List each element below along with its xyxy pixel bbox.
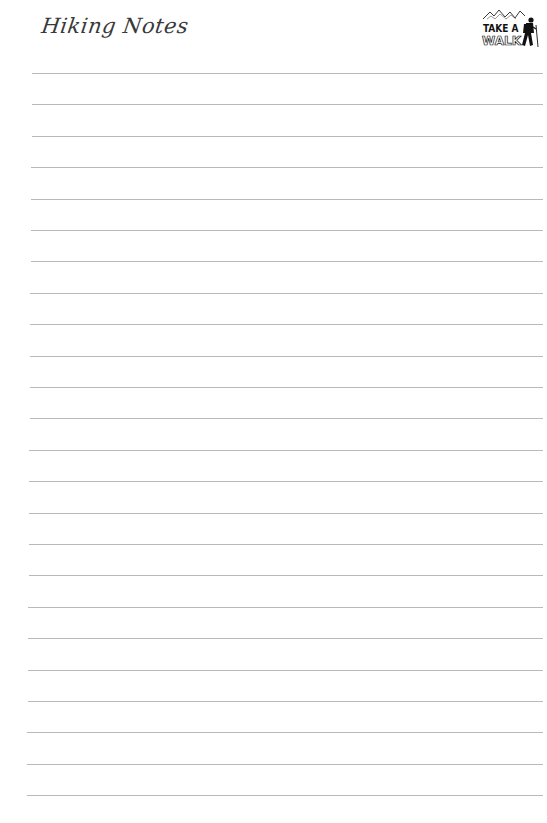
- writing-line: [29, 481, 543, 482]
- writing-line: [27, 732, 543, 733]
- writing-line: [28, 670, 543, 671]
- writing-line: [31, 167, 543, 168]
- writing-line: [32, 104, 543, 105]
- ruled-lines: [0, 0, 547, 823]
- writing-line: [28, 701, 543, 702]
- writing-line: [27, 764, 543, 765]
- writing-line: [30, 418, 543, 419]
- notebook-page: Hiking Notes TAKE A WALK: [0, 0, 547, 823]
- writing-line: [32, 73, 543, 74]
- writing-line: [30, 387, 543, 388]
- writing-line: [28, 607, 543, 608]
- writing-line: [29, 450, 543, 451]
- writing-line: [29, 513, 543, 514]
- writing-line: [30, 324, 543, 325]
- writing-line: [31, 230, 543, 231]
- writing-line: [30, 356, 543, 357]
- writing-line: [31, 199, 543, 200]
- writing-line: [32, 136, 543, 137]
- writing-line: [31, 261, 543, 262]
- writing-line: [29, 544, 543, 545]
- writing-line: [29, 575, 543, 576]
- writing-line: [28, 638, 543, 639]
- writing-line: [30, 293, 543, 294]
- writing-line: [27, 795, 543, 796]
